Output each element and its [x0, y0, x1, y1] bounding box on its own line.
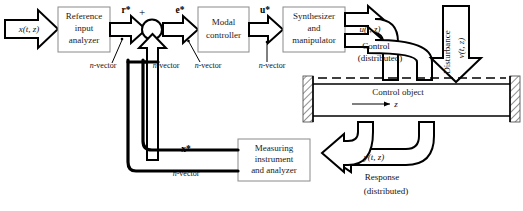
- block-modal-line-1: Modal: [212, 17, 236, 27]
- summing-plus-sign: +: [139, 6, 145, 18]
- left-fixed-support-hatch: [303, 76, 313, 122]
- block-synthesizer-and-manipulator[interactable]: Synthesizer and manipulator: [283, 7, 345, 52]
- plant-label: Control object: [372, 87, 424, 97]
- right-fixed-support-hatch: [510, 76, 520, 122]
- block-synth-line-1: Synthesizer: [293, 11, 335, 21]
- block-synth-line-2: and: [308, 23, 321, 33]
- control-system-diagram: x(t, z) Reference input analyzer r* n-ve…: [0, 0, 523, 211]
- arrow-control-star: [249, 16, 283, 43]
- disturbance-signal-label: v(t, z): [456, 38, 466, 59]
- nvec-u-dot: [266, 41, 269, 44]
- block-reference-input-analyzer[interactable]: Reference input analyzer: [58, 7, 110, 52]
- nvec-x: n-vector: [173, 169, 200, 178]
- response-caption-line-2: (distributed): [364, 186, 409, 196]
- signal-label-u-tz: u(t, z): [360, 24, 381, 34]
- block-synth-line-3: manipulator: [292, 35, 336, 45]
- axis-z-arrow: [352, 102, 390, 107]
- signal-label-x-star: x*: [181, 144, 191, 154]
- block-reference-line-1: Reference: [66, 11, 102, 21]
- block-measuring-line-3: and analyzer: [251, 165, 297, 175]
- nvec-r-dot: [121, 38, 124, 41]
- block-modal-controller[interactable]: Modal controller: [198, 7, 249, 52]
- signal-label-y-tz: y(t, z): [363, 152, 385, 162]
- signal-label-e-star: e*: [176, 5, 185, 15]
- nvec-u: n-vector: [259, 61, 286, 70]
- nvec-e: n-vector: [195, 61, 222, 70]
- block-modal-line-2: controller: [206, 30, 241, 40]
- arrow-error-star: [163, 16, 198, 43]
- block-measuring-line-1: Measuring: [255, 143, 294, 153]
- response-caption-line-1: Response: [365, 172, 400, 182]
- nvec-e-dot: [187, 40, 190, 43]
- control-caption-line-2: (distributed): [358, 53, 403, 63]
- block-reference-line-2: input: [75, 23, 94, 33]
- block-reference-line-3: analyzer: [69, 35, 99, 45]
- nvec-r-leader: [112, 40, 122, 63]
- axis-z-label: z: [393, 99, 398, 109]
- input-signal-label: x(t, z): [18, 24, 40, 34]
- plant-control-object: [303, 76, 520, 122]
- signal-label-r-star: r*: [122, 5, 131, 15]
- arrow-response-distributed: [322, 122, 434, 172]
- block-measuring-instrument-and-analyzer[interactable]: Measuring instrument and analyzer: [238, 139, 310, 181]
- arrow-reference-star: [110, 16, 146, 43]
- feedback-path-x-star: [128, 60, 238, 171]
- disturbance-label: Disturbance: [442, 30, 452, 73]
- signal-label-u-star: u*: [260, 5, 270, 15]
- control-caption-line-1: Control: [362, 41, 390, 51]
- block-measuring-line-2: instrument: [255, 154, 294, 164]
- diagram-canvas: x(t, z) Reference input analyzer r* n-ve…: [0, 0, 523, 211]
